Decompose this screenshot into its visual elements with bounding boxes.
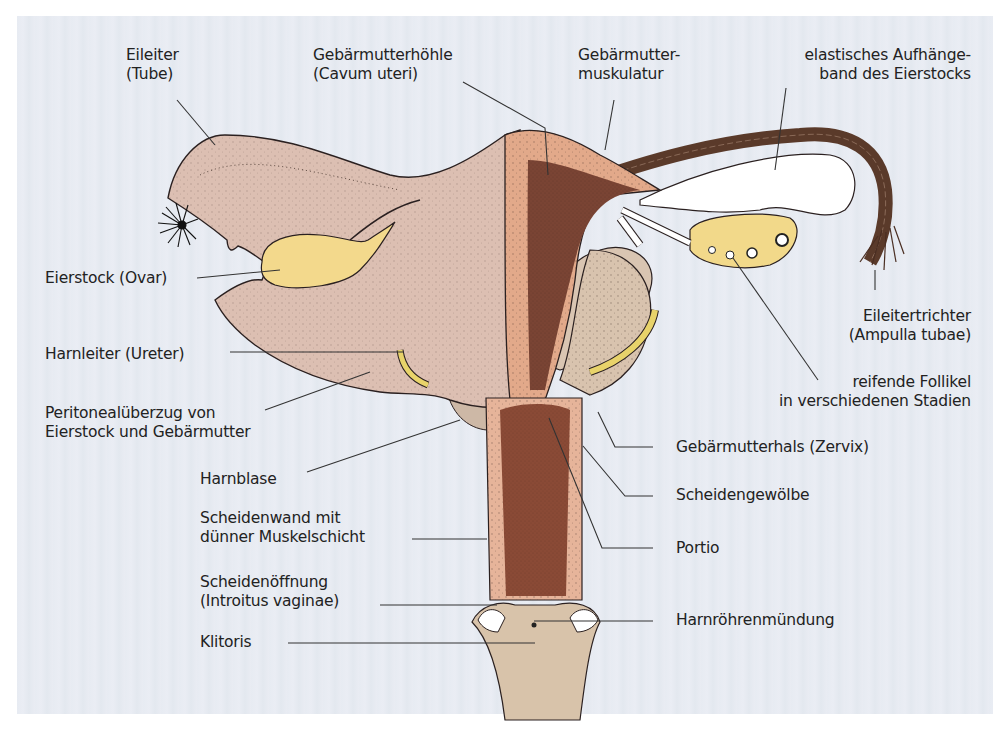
label-scheidengewoelbe: Scheidengewölbe — [676, 486, 809, 505]
label-eierstock: Eierstock (Ovar) — [45, 269, 167, 288]
ovarian-ligament — [640, 154, 855, 215]
leader-zervix — [598, 412, 653, 447]
follicle — [726, 251, 734, 259]
label-scheidenoeffnung: Scheidenöffnung (Introitus vaginae) — [200, 573, 339, 611]
label-klitoris: Klitoris — [200, 633, 252, 652]
label-zervix: Gebärmutterhals (Zervix) — [676, 438, 869, 457]
label-harnroehrenmuendung: Harnröhrenmündung — [676, 611, 834, 630]
label-follikel: reifende Follikel in verschiedenen Stadi… — [779, 373, 971, 411]
label-harnleiter: Harnleiter (Ureter) — [45, 345, 184, 364]
follicle — [747, 248, 757, 258]
leader-muskulatur — [605, 100, 614, 150]
leader-harnblase — [307, 420, 460, 472]
follicle — [776, 234, 788, 246]
label-portio: Portio — [676, 539, 719, 558]
label-aufhaengeband: elastisches Aufhänge- band des Eierstock… — [804, 46, 971, 84]
label-eileitertrichter: Eileitertrichter (Ampulla tubae) — [849, 307, 971, 345]
right-ovary — [620, 210, 797, 268]
label-harnblase: Harnblase — [200, 470, 277, 489]
label-gebaermutterhoehle: Gebärmutterhöhle (Cavum uteri) — [313, 46, 452, 84]
label-scheidenwand: Scheidenwand mit dünner Muskelschicht — [200, 509, 365, 547]
label-peritoneal: Peritonealüberzug von Eierstock und Gebä… — [45, 404, 250, 442]
leader-scheidengewoelbe — [583, 446, 653, 496]
leader-eileiter — [177, 100, 215, 145]
follicle — [709, 247, 716, 254]
leader-follikel — [733, 258, 818, 380]
label-gebaermuttermuskulatur: Gebärmutter- muskulatur — [578, 46, 680, 84]
label-eileiter: Eileiter (Tube) — [126, 46, 179, 84]
vagina — [486, 398, 582, 600]
